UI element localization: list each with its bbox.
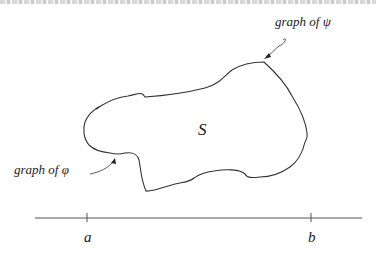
psi-arrow-icon bbox=[268, 39, 286, 56]
axis-label-a: a bbox=[84, 229, 92, 246]
phi-arrowhead-icon bbox=[111, 158, 116, 164]
region-diagram bbox=[0, 0, 376, 257]
boundary-mark-icon bbox=[96, 107, 99, 109]
region-s-boundary bbox=[84, 62, 307, 191]
graph-of-phi-label: graph of φ bbox=[14, 162, 69, 178]
region-s-label: S bbox=[198, 120, 207, 140]
axis-label-b: b bbox=[308, 229, 316, 246]
graph-of-psi-label: graph of ψ bbox=[275, 14, 331, 30]
phi-arrow-icon bbox=[90, 162, 113, 174]
